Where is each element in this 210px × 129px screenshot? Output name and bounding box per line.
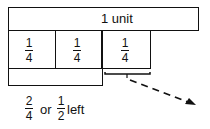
or-text: or [40,102,52,117]
result-fraction-2-4: 24 [25,95,33,122]
result-fraction-1-2: 12 [57,95,65,122]
left-text: left [67,102,84,117]
